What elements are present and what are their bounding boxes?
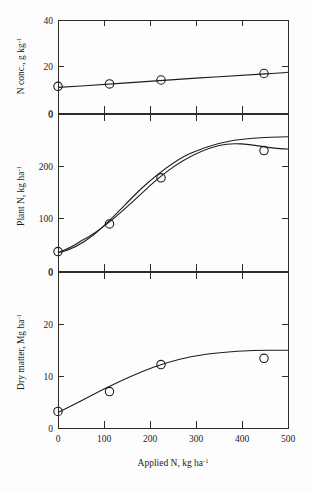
panel-plant-n-y-ticks [58, 114, 288, 271]
panel-plant-n-ytick-100: 100 [39, 214, 54, 224]
panel-n-conc-ytick-20: 20 [44, 62, 54, 72]
panel-n-conc-data-points [54, 69, 268, 90]
panel-n-conc-fit-curve [58, 72, 288, 87]
panel-plant-n-x-ticks [104, 114, 242, 271]
xtick-300: 300 [189, 434, 204, 444]
panel-n-conc-ytick-40: 40 [44, 16, 54, 26]
data-point [105, 387, 113, 395]
three-panel-response-figure: 40 20 0 [0, 0, 313, 491]
x-axis-tick-labels: 0 100 200 300 400 500 [56, 434, 296, 444]
panel-plant-n-ytick-top: 0 [48, 110, 53, 120]
panel-plant-n-ytick-200: 200 [39, 162, 54, 172]
data-point [260, 354, 268, 362]
panel-dry-matter-x-ticks [104, 272, 242, 428]
panel-n-conc-x-ticks [104, 20, 242, 113]
x-axis-title: Applied N, kg ha-1 [138, 457, 209, 469]
panel-dry-matter-ytick-10: 10 [44, 372, 54, 382]
panel-n-conc-frame [58, 20, 288, 113]
panel-plant-n-fit-curve-main [58, 137, 288, 253]
panel-n-conc: 40 20 0 [15, 16, 289, 119]
xtick-400: 400 [235, 434, 250, 444]
panel-n-conc-axis-title: N conc., g kg-1 [15, 38, 27, 94]
panel-plant-n-data-points [54, 146, 268, 255]
panel-dry-matter-ytick-0: 0 [48, 424, 53, 434]
panel-dry-matter-ytick-20: 20 [44, 320, 54, 330]
figure-container: 40 20 0 [0, 0, 313, 491]
panel-n-conc-y-ticks [58, 20, 288, 113]
xtick-200: 200 [143, 434, 158, 444]
panel-dry-matter-y-ticks [58, 272, 288, 428]
xtick-500: 500 [281, 434, 296, 444]
data-point [157, 174, 165, 182]
panel-dry-matter-frame [58, 272, 288, 428]
panel-dry-matter-axis-title: Dry matter, Mg ha-1 [15, 314, 27, 390]
panel-plant-n-frame [58, 114, 288, 271]
data-point [260, 146, 268, 154]
panel-plant-n: 0 200 100 0 Pla [15, 110, 289, 277]
xtick-100: 100 [97, 434, 112, 444]
panel-dry-matter-fit-curve [58, 350, 288, 412]
panel-dry-matter-data-points [54, 354, 268, 416]
xtick-0: 0 [56, 434, 61, 444]
panel-dry-matter-ytick-top: 0 [48, 268, 53, 278]
panel-plant-n-axis-title: Plant N, kg ha-1 [15, 166, 27, 226]
panel-dry-matter: 0 20 10 0 Dry matter, [15, 268, 289, 434]
